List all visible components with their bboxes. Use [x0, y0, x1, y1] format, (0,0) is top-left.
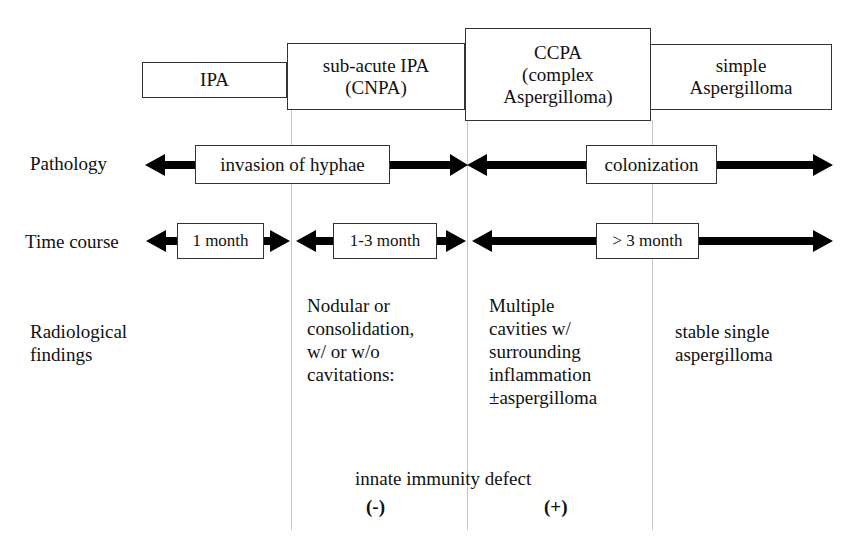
pathology-tag-colonization-text: colonization [605, 154, 699, 176]
time-tag-1-month-text: 1 month [192, 231, 248, 251]
pathology-tag-colonization: colonization [586, 145, 717, 184]
time-tag-1-month: 1 month [177, 223, 264, 259]
stage-box-ccpa: CCPA (complex Aspergilloma) [465, 28, 651, 121]
immunity-negative: (-) [366, 495, 385, 518]
stage-label-ccpa: CCPA (complex Aspergilloma) [503, 42, 612, 108]
time-tag-over-3-month-text: > 3 month [612, 231, 682, 251]
row-label-pathology: Pathology [30, 152, 107, 175]
stage-label-simple: simple Aspergilloma [689, 55, 792, 99]
stage-label-cnpa: sub-acute IPA (CNPA) [323, 55, 429, 99]
time-tag-over-3-month: > 3 month [596, 223, 699, 259]
stage-box-ipa: IPA [142, 62, 287, 98]
radiological-ccpa: Multiple cavities w/ surrounding inflamm… [489, 294, 597, 409]
pathology-tag-invasion-text: invasion of hyphae [220, 154, 365, 176]
time-tag-1-3-month: 1-3 month [333, 223, 437, 259]
pathology-tag-invasion: invasion of hyphae [195, 145, 390, 184]
immunity-positive: (+) [544, 495, 567, 518]
immunity-title: innate immunity defect [355, 467, 531, 490]
radiological-cnpa: Nodular or consolidation, w/ or w/o cavi… [307, 294, 414, 386]
row-label-time-course: Time course [25, 230, 119, 253]
row-label-radiological: Radiological findings [30, 320, 127, 366]
radiological-simple: stable single aspergilloma [675, 320, 773, 366]
stage-box-cnpa: sub-acute IPA (CNPA) [287, 43, 465, 110]
time-tag-1-3-month-text: 1-3 month [350, 231, 420, 251]
stage-box-simple: simple Aspergilloma [650, 44, 832, 110]
stage-label-ipa: IPA [200, 69, 229, 91]
